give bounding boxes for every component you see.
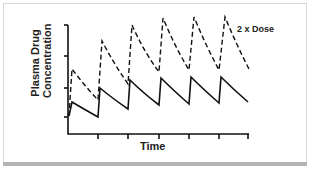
series-annotation-2x-dose: 2 x Dose (237, 24, 274, 34)
y-axis-label-line1: Plasma Drug (29, 28, 41, 98)
y-axis-label: Plasma Drug Concentration (29, 28, 53, 98)
y-axis-label-line2: Concentration (41, 28, 53, 98)
x-axis-label: Time (140, 140, 165, 152)
